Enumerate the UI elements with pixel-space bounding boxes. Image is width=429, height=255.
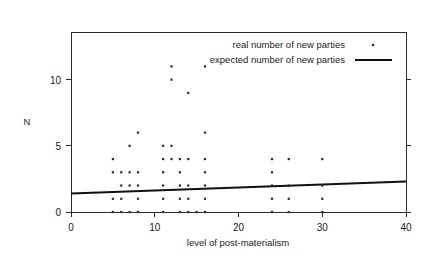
data-point — [112, 211, 114, 213]
data-point — [179, 198, 181, 200]
data-point — [170, 145, 172, 147]
data-point — [187, 211, 189, 213]
data-point — [162, 171, 164, 173]
data-point — [170, 65, 172, 67]
data-point — [137, 198, 139, 200]
data-point — [204, 131, 206, 133]
data-point — [321, 158, 323, 160]
x-tick-label-30: 30 — [317, 222, 329, 233]
data-point — [162, 158, 164, 160]
data-point — [288, 184, 290, 186]
x-tick-label-20: 20 — [233, 222, 245, 233]
data-point — [120, 198, 122, 200]
data-point — [112, 198, 114, 200]
y-axis-title: N — [24, 116, 31, 127]
data-point — [204, 211, 206, 213]
legend-label-0: real number of new parties — [233, 39, 346, 50]
data-point — [170, 158, 172, 160]
data-point — [271, 211, 273, 213]
data-point — [120, 171, 122, 173]
data-point — [129, 184, 131, 186]
y-tick-label-10: 10 — [50, 75, 62, 86]
x-tick-label-10: 10 — [149, 222, 161, 233]
data-point — [204, 65, 206, 67]
data-point — [162, 198, 164, 200]
data-point — [129, 145, 131, 147]
data-point — [204, 198, 206, 200]
data-point — [271, 184, 273, 186]
data-point — [288, 211, 290, 213]
x-tick-label-0: 0 — [68, 222, 74, 233]
data-point — [137, 171, 139, 173]
data-point — [129, 171, 131, 173]
data-point — [112, 158, 114, 160]
data-point — [321, 198, 323, 200]
legend-marker-point — [372, 44, 374, 46]
chart-legend: real number of new partiesexpected numbe… — [210, 39, 392, 65]
data-point — [187, 158, 189, 160]
data-point — [112, 171, 114, 173]
x-axis-title: level of post-materialism — [187, 237, 290, 248]
data-point — [137, 184, 139, 186]
data-point — [271, 158, 273, 160]
legend-label-1: expected number of new parties — [210, 54, 345, 65]
data-point — [120, 184, 122, 186]
data-point — [288, 158, 290, 160]
data-point — [187, 92, 189, 94]
y-axis-ticks: 0510 — [50, 75, 411, 218]
data-point — [137, 211, 139, 213]
data-point — [321, 184, 323, 186]
data-point — [162, 145, 164, 147]
data-point — [179, 171, 181, 173]
data-point — [129, 211, 131, 213]
plot-canvas: 010203040 0510 real number of new partie… — [0, 0, 429, 255]
data-point — [321, 211, 323, 213]
x-tick-label-40: 40 — [400, 222, 412, 233]
data-point — [179, 184, 181, 186]
expected-parties-trend-line — [71, 182, 406, 194]
trend-line-segment — [71, 182, 406, 194]
data-point — [187, 198, 189, 200]
data-point — [204, 184, 206, 186]
scatter-plot-figure: 010203040 0510 real number of new partie… — [0, 0, 429, 255]
data-point — [170, 79, 172, 81]
y-tick-label-0: 0 — [55, 207, 61, 218]
data-point — [179, 211, 181, 213]
data-point — [271, 171, 273, 173]
x-axis-ticks: 010203040 — [68, 212, 412, 233]
data-point — [204, 158, 206, 160]
data-point — [187, 184, 189, 186]
data-point — [162, 211, 164, 213]
data-point — [196, 211, 198, 213]
data-point — [137, 131, 139, 133]
data-point — [162, 184, 164, 186]
data-point — [179, 158, 181, 160]
data-point — [271, 198, 273, 200]
data-point — [204, 171, 206, 173]
data-point — [120, 211, 122, 213]
y-tick-label-5: 5 — [55, 141, 61, 152]
data-point — [288, 198, 290, 200]
